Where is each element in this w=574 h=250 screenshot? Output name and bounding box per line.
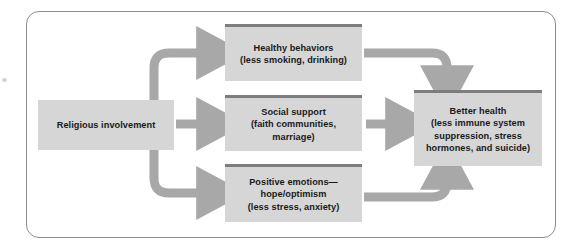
node-social-support-label: Social support(faith communities,marriag… [229, 106, 358, 143]
node-healthy-behaviors-label: Healthy behaviors(less smoking, drinking… [229, 42, 358, 67]
node-healthy-behaviors[interactable]: Healthy behaviors(less smoking, drinking… [225, 24, 362, 81]
arrow-positive-to-better [364, 179, 447, 197]
node-better-health[interactable]: Better health(less immune systemsuppress… [414, 90, 542, 166]
node-positive-emotions[interactable]: Positive emotions—hope/optimism(less str… [225, 164, 362, 222]
node-positive-emotions-label: Positive emotions—hope/optimism(less str… [229, 176, 358, 213]
node-religious-involvement[interactable]: Religious involvement [38, 100, 174, 150]
arrow-religious-to-positive [154, 150, 207, 193]
diagram-figure: Religious involvement Healthy behaviors(… [0, 0, 574, 250]
node-better-health-label: Better health(less immune systemsuppress… [418, 105, 538, 155]
node-social-support[interactable]: Social support(faith communities,marriag… [225, 95, 362, 151]
node-religious-involvement-label: Religious involvement [42, 119, 170, 131]
arrow-healthy-to-better [364, 53, 447, 76]
arrow-religious-to-healthy [154, 53, 207, 100]
